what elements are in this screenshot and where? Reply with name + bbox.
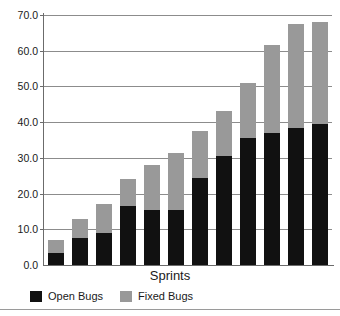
bar-segment-fixed-bugs [120, 179, 136, 206]
bar-stack [96, 204, 112, 265]
bar-stack [240, 83, 256, 265]
y-axis-tick-label: 70.0 [0, 9, 38, 21]
bar-segment-fixed-bugs [72, 219, 88, 239]
legend-label-fixed-bugs: Fixed Bugs [138, 290, 193, 302]
x-axis-title: Sprints [0, 268, 340, 283]
bar-segment-fixed-bugs [288, 24, 304, 128]
bar-stack [216, 111, 232, 265]
bar-stack [288, 24, 304, 265]
bar-segment-open-bugs [168, 210, 184, 265]
bar-segment-open-bugs [96, 233, 112, 265]
bar-segment-open-bugs [120, 206, 136, 265]
bar-stack [120, 179, 136, 265]
x-axis-line [43, 265, 334, 266]
bar-segment-open-bugs [192, 178, 208, 266]
y-axis-tick-label: 10.0 [0, 223, 38, 235]
bar-series-container [44, 15, 332, 265]
bar-segment-fixed-bugs [96, 204, 112, 233]
bar-segment-open-bugs [216, 156, 232, 265]
bar-segment-fixed-bugs [264, 45, 280, 133]
bar-stack [72, 219, 88, 265]
legend-item-fixed-bugs: Fixed Bugs [120, 290, 193, 302]
legend-swatch-fixed-bugs [120, 291, 132, 302]
legend-swatch-open-bugs [30, 291, 42, 302]
bar-stack [168, 153, 184, 266]
y-axis-tick-label: 30.0 [0, 152, 38, 164]
y-axis-tick-label: 40.0 [0, 116, 38, 128]
bar-segment-open-bugs [72, 238, 88, 265]
bar-stack [144, 165, 160, 265]
stacked-bar-chart: 0.010.020.030.040.050.060.070.0 Sprints … [0, 0, 340, 316]
y-axis-tick-label: 20.0 [0, 188, 38, 200]
bar-segment-open-bugs [240, 138, 256, 265]
bar-stack [192, 131, 208, 265]
bar-stack [48, 240, 64, 265]
bar-segment-open-bugs [312, 124, 328, 265]
bar-segment-open-bugs [288, 128, 304, 266]
bar-segment-fixed-bugs [240, 83, 256, 138]
bar-stack [312, 22, 328, 265]
legend-item-open-bugs: Open Bugs [30, 290, 103, 302]
bar-segment-fixed-bugs [168, 153, 184, 210]
plot-area [44, 15, 332, 265]
bar-segment-fixed-bugs [312, 22, 328, 124]
y-axis-tick-label: 60.0 [0, 45, 38, 57]
bar-stack [264, 45, 280, 265]
bar-segment-fixed-bugs [144, 165, 160, 210]
bar-segment-fixed-bugs [192, 131, 208, 177]
bar-segment-fixed-bugs [48, 240, 64, 253]
y-axis-tick-label: 50.0 [0, 80, 38, 92]
bottom-divider [0, 309, 340, 310]
chart-legend: Open Bugs Fixed Bugs [30, 290, 193, 302]
legend-label-open-bugs: Open Bugs [48, 290, 103, 302]
bar-segment-open-bugs [144, 210, 160, 265]
bar-segment-open-bugs [48, 253, 64, 266]
bar-segment-open-bugs [264, 133, 280, 265]
bar-segment-fixed-bugs [216, 111, 232, 156]
